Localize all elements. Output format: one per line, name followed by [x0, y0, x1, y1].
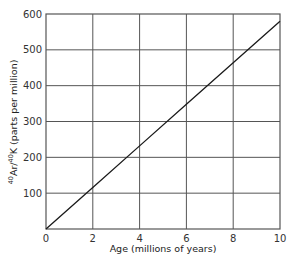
x-tick-label: 2: [90, 233, 96, 244]
x-tick-label: 8: [230, 233, 236, 244]
ylabel-sup1: 40: [7, 176, 15, 184]
x-tick-label: 0: [43, 233, 49, 244]
grid-lines: [46, 14, 280, 229]
x-axis-label: Age (millions of years): [110, 243, 217, 254]
y-axis-ticks: 100200300400500600: [23, 9, 42, 199]
ylabel-base2: K (parts per million): [8, 60, 19, 155]
y-tick-label: 400: [23, 80, 42, 91]
data-line: [46, 21, 280, 229]
x-tick-label: 10: [274, 233, 287, 244]
y-tick-label: 100: [23, 188, 42, 199]
y-axis-label: 40Ar/40K (parts per million): [7, 60, 19, 185]
y-tick-label: 600: [23, 9, 42, 20]
ylabel-sup2: 40: [7, 154, 15, 162]
chart: 0246810 100200300400500600 Age (millions…: [0, 0, 290, 265]
ylabel-base1: Ar/: [8, 162, 19, 176]
y-tick-label: 500: [23, 44, 42, 55]
y-tick-label: 200: [23, 152, 42, 163]
y-tick-label: 300: [23, 116, 42, 127]
